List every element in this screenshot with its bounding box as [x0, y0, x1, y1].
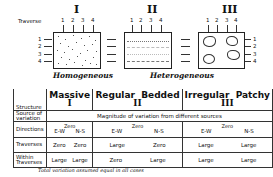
panel-2-bedded-box — [124, 32, 172, 69]
row-label-within-traverses: Within Traverses — [14, 152, 47, 167]
panel-roman-1: I — [74, 3, 79, 16]
cell-traverses-massive: ZeroZero — [46, 137, 93, 152]
column-roman: II — [95, 99, 179, 107]
patch — [203, 54, 215, 64]
cell-value: Large — [241, 157, 256, 163]
cell-within-massive: LargeLarge — [46, 152, 93, 167]
tick-label: 3 — [225, 17, 229, 23]
cell-value: Zero — [109, 157, 122, 163]
tick-label: 4 — [234, 17, 238, 23]
cell-value: Large — [150, 157, 165, 163]
cell-value: Zero — [53, 142, 66, 148]
caption-heterogeneous: Heterogeneous — [150, 71, 214, 80]
patch — [203, 36, 216, 47]
tick-label: 1 — [130, 17, 134, 23]
cell-value: Large — [241, 142, 256, 148]
tick-label: 4 — [91, 17, 95, 23]
source-of-variation-label: Source of variation — [14, 110, 47, 121]
panel-roman-2: II — [147, 3, 157, 16]
variation-table: Structure Massive I Regular Bedded II Ir… — [13, 89, 273, 168]
cell-traverses-bedded: LargeZero — [93, 137, 182, 152]
tick-label: 4 — [253, 58, 257, 64]
tick-label: 3 — [149, 17, 153, 23]
cell-value: Zero — [153, 142, 166, 148]
panel-1-homogeneous-box — [53, 32, 101, 69]
cell-value: E-W — [54, 128, 65, 134]
cell-value: N-S — [244, 128, 254, 134]
tick-label: 2 — [253, 43, 257, 49]
column-header-bedded: Regular Bedded II — [93, 89, 182, 110]
column-header-patchy: Irregular Patchy III — [182, 89, 272, 110]
row-label-directions: Directions — [14, 121, 47, 137]
tick-label: 2 — [215, 17, 219, 23]
tick-label: 2 — [71, 17, 75, 23]
structure-label: Structure — [14, 89, 47, 110]
cell-value: Large — [109, 142, 124, 148]
cell-value: Large — [52, 157, 67, 163]
tick-label: 1 — [38, 36, 42, 42]
cell-within-patchy: LargeLarge — [182, 152, 272, 167]
tick-label: 1 — [61, 17, 65, 23]
footer-note: Total variation assumed equal in all cas… — [38, 167, 144, 173]
cell-value: N-S — [154, 128, 164, 134]
patch — [226, 36, 238, 46]
cell-directions-bedded: ZeroE-WN-S — [93, 121, 182, 137]
source-of-variation-value: Magnitude of variation from different so… — [46, 110, 272, 121]
tick-label: 3 — [81, 17, 85, 23]
cell-value: Large — [198, 157, 213, 163]
cell-within-bedded: ZeroLarge — [93, 152, 182, 167]
patch — [227, 50, 240, 60]
tick-label: 1 — [206, 17, 210, 23]
cell-directions-patchy: ZeroE-WN-S — [182, 121, 272, 137]
column-header-massive: Massive I — [46, 89, 93, 110]
tick-label: 3 — [253, 51, 257, 57]
cell-traverses-patchy: LargeLarge — [182, 137, 272, 152]
row-label-traverses: Traverses — [14, 137, 47, 152]
cell-value: Large — [198, 142, 213, 148]
cell-value: E-W — [201, 128, 212, 134]
column-roman: I — [49, 99, 91, 107]
cell-value: E-W — [111, 128, 122, 134]
column-roman: III — [185, 99, 270, 107]
tick-label: 3 — [38, 51, 42, 57]
tick-label: 2 — [38, 43, 42, 49]
cell-value: N-S — [76, 128, 86, 134]
panel-3-patchy-box — [198, 32, 245, 69]
cell-value: Zero — [74, 142, 87, 148]
traverse-label: Traverse — [18, 18, 41, 24]
tick-label: 4 — [38, 58, 42, 64]
cell-directions-massive: ZeroE-WN-S — [46, 121, 93, 137]
tick-label: 4 — [159, 17, 163, 23]
panel-roman-3: III — [222, 3, 237, 16]
cell-value: Large — [72, 157, 87, 163]
caption-homogeneous: Homogeneous — [53, 71, 113, 80]
tick-label: 2 — [139, 17, 143, 23]
tick-label: 1 — [253, 36, 257, 42]
